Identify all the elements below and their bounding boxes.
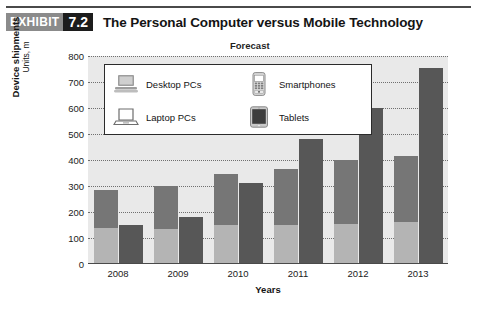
legend-item-label: Tablets [279, 112, 309, 123]
bar-segment-laptop-pcs[interactable] [214, 174, 238, 225]
y-axis-tick-label: 300 [68, 181, 84, 192]
bar-pc-stacked[interactable] [334, 160, 358, 264]
bar-mobile[interactable] [419, 68, 443, 264]
legend-item-laptop-pcs[interactable]: Laptop PCs [105, 101, 238, 134]
y-axis-title-units: Units, m [21, 2, 31, 112]
x-axis-title: Years [88, 284, 448, 295]
bar-segment-laptop-pcs[interactable] [394, 156, 418, 222]
x-axis-tick-label: 2011 [268, 268, 328, 279]
desktop-computer-icon [113, 72, 139, 96]
legend-item-desktop-pcs[interactable]: Desktop PCs [105, 68, 238, 101]
y-axis-tick-label: 500 [68, 129, 84, 140]
bar-segment-desktop-pcs[interactable] [214, 225, 238, 264]
bar-segment-mobile-devices[interactable] [239, 183, 263, 264]
exhibit-badge-number: 7.2 [63, 13, 92, 31]
bar-segment-mobile-devices[interactable] [299, 139, 323, 264]
legend-item-smartphones[interactable]: Smartphones [238, 68, 371, 101]
tablet-icon [246, 105, 272, 129]
bar-mobile[interactable] [299, 139, 323, 264]
bar-segment-desktop-pcs[interactable] [394, 222, 418, 264]
bar-segment-desktop-pcs[interactable] [274, 225, 298, 264]
chart-legend: Desktop PCsSmartphonesLaptop PCsTablets [104, 64, 372, 135]
y-axis-tick-label: 800 [68, 51, 84, 62]
exhibit-header: EXHIBIT 7.2 The Personal Computer versus… [6, 11, 423, 33]
smartphone-icon [246, 72, 272, 96]
laptop-icon [113, 105, 139, 129]
y-axis-tick-label: 700 [68, 77, 84, 88]
legend-item-label: Laptop PCs [146, 112, 196, 123]
x-axis-tick-label: 2013 [388, 268, 448, 279]
bar-pc-stacked[interactable] [154, 186, 178, 264]
y-axis-tick-labels: 8007006005004003002001000 [50, 56, 84, 264]
exhibit-page: EXHIBIT 7.2 The Personal Computer versus… [0, 0, 477, 314]
bar-pc-stacked[interactable] [274, 169, 298, 264]
bar-segment-mobile-devices[interactable] [119, 225, 143, 264]
y-axis-tick-label: 100 [68, 233, 84, 244]
bar-segment-laptop-pcs[interactable] [334, 160, 358, 224]
y-axis-title-main: Device shipments [10, 2, 21, 112]
x-axis-line [88, 263, 448, 264]
y-axis-tick-label: 200 [68, 207, 84, 218]
y-axis-title: Device shipments Units, m [10, 2, 31, 112]
legend-item-label: Desktop PCs [146, 79, 201, 90]
bar-mobile[interactable] [119, 225, 143, 264]
bar-pc-stacked[interactable] [394, 156, 418, 264]
x-axis-tick-label: 2010 [208, 268, 268, 279]
y-axis-tick-label: 600 [68, 103, 84, 114]
page-title: The Personal Computer versus Mobile Tech… [103, 15, 423, 30]
bar-mobile[interactable] [239, 183, 263, 264]
bar-pc-stacked[interactable] [214, 174, 238, 264]
legend-item-tablets[interactable]: Tablets [238, 101, 371, 134]
bar-segment-mobile-devices[interactable] [419, 68, 443, 264]
bar-pc-stacked[interactable] [94, 190, 118, 264]
x-axis-tick-label: 2012 [328, 268, 388, 279]
bar-segment-laptop-pcs[interactable] [94, 190, 118, 228]
bar-mobile[interactable] [179, 217, 203, 264]
y-axis-tick-label: 0 [79, 259, 84, 270]
y-axis-tick-label: 400 [68, 155, 84, 166]
bar-segment-laptop-pcs[interactable] [274, 169, 298, 225]
header-rule [6, 6, 471, 8]
forecast-annotation: Forecast [230, 40, 270, 51]
bar-group [388, 56, 448, 264]
x-axis-tick-labels: 200820092010201120122013 [88, 268, 448, 279]
x-axis-tick-label: 2009 [148, 268, 208, 279]
x-axis-tick-label: 2008 [88, 268, 148, 279]
bar-segment-desktop-pcs[interactable] [154, 229, 178, 264]
bar-segment-mobile-devices[interactable] [179, 217, 203, 264]
bar-segment-desktop-pcs[interactable] [94, 228, 118, 264]
chart-container: Forecast Device shipments Units, m 80070… [16, 36, 461, 304]
bar-segment-desktop-pcs[interactable] [334, 224, 358, 264]
legend-item-label: Smartphones [279, 79, 336, 90]
bar-segment-laptop-pcs[interactable] [154, 186, 178, 229]
